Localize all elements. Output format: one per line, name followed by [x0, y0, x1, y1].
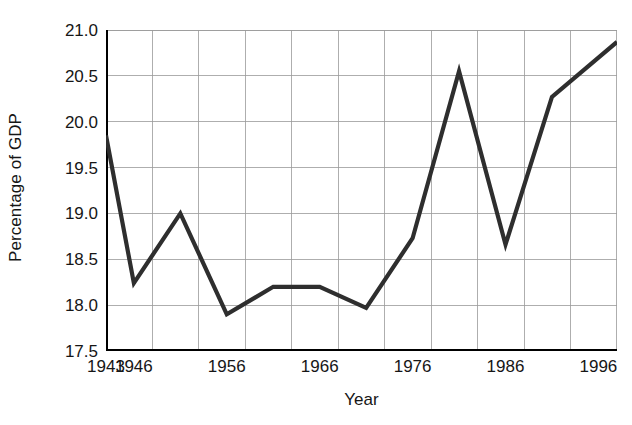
y-tick-label: 19.5 [38, 159, 98, 176]
line-chart: Percentage of GDP 17.518.018.519.019.520… [0, 0, 632, 425]
x-tick-label: 1966 [301, 357, 339, 377]
x-axis-title: Year [106, 390, 617, 410]
horizontal-gridlines [106, 30, 617, 305]
x-tick-label: 1986 [487, 357, 525, 377]
x-tick-label: 1956 [208, 357, 246, 377]
x-tick-label: 1996 [579, 357, 617, 377]
plot-area [106, 30, 617, 351]
x-axis-tick-labels: 1943194619561966197619861996 [0, 357, 632, 383]
y-tick-label: 18.0 [38, 297, 98, 314]
x-tick-label: 1976 [394, 357, 432, 377]
y-axis-title: Percentage of GDP [0, 15, 32, 360]
axis-lines [106, 30, 617, 351]
y-tick-label: 19.0 [38, 205, 98, 222]
data-series-line [106, 42, 617, 314]
x-tick-label: 1946 [115, 357, 153, 377]
y-tick-label: 20.0 [38, 113, 98, 130]
y-tick-label: 18.5 [38, 251, 98, 268]
plot-frame-edges [106, 30, 617, 351]
y-tick-label: 21.0 [38, 22, 98, 39]
plot-svg [106, 30, 617, 351]
y-tick-label: 20.5 [38, 67, 98, 84]
